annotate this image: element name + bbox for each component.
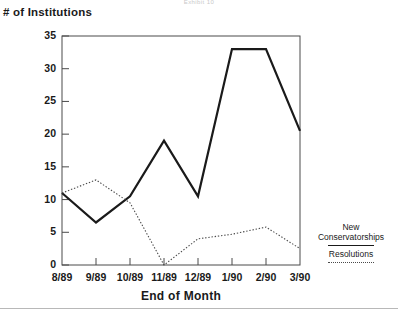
- exhibit-title: Exhibit 10: [0, 0, 398, 5]
- x-tick-label: 3/90: [280, 271, 320, 283]
- footer-divider: [0, 308, 398, 309]
- legend-entry-new-conservatorships-line1: New: [305, 222, 397, 232]
- y-tick-label: 25: [30, 94, 56, 106]
- y-tick-label: 30: [30, 62, 56, 74]
- chart-legend: New Conservatorships Resolutions: [305, 222, 397, 263]
- y-axis-title: # of Institutions: [3, 6, 92, 18]
- plot-frame: [62, 36, 300, 265]
- tick-marks-group: [62, 36, 266, 265]
- data-series-group: [62, 49, 300, 265]
- series-line-new-conservatorships: [62, 49, 300, 222]
- x-axis-title: End of Month: [62, 289, 300, 303]
- y-tick-label: 0: [30, 258, 56, 270]
- chart-figure: Exhibit 10 # of Institutions 05101520253…: [0, 0, 398, 318]
- legend-entry-new-conservatorships-line2: Conservatorships: [305, 232, 397, 242]
- y-tick-label: 10: [30, 193, 56, 205]
- y-tick-label: 20: [30, 127, 56, 139]
- axes-group: [62, 36, 300, 265]
- dotted-line-swatch: [328, 262, 374, 263]
- y-tick-label: 35: [30, 29, 56, 41]
- solid-line-swatch: [328, 245, 374, 246]
- y-tick-label: 5: [30, 225, 56, 237]
- y-tick-label: 15: [30, 160, 56, 172]
- legend-entry-resolutions-line1: Resolutions: [305, 249, 397, 259]
